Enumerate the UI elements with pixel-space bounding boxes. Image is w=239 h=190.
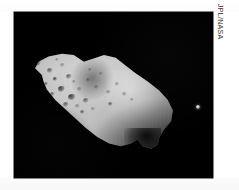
asteroid-photo (14, 12, 213, 178)
crater (68, 94, 76, 100)
crater (108, 102, 113, 106)
crater (91, 107, 95, 111)
crater (47, 68, 53, 73)
crater (77, 87, 82, 91)
crater (55, 58, 59, 61)
asteroid-ida (20, 30, 188, 162)
asteroid-terminator-cusp (124, 128, 161, 154)
moon-dactyl (196, 105, 200, 109)
crater (38, 74, 43, 79)
crater (58, 86, 65, 92)
crater (99, 72, 103, 75)
photo-page: JPL/NASA (0, 0, 239, 190)
crater (88, 68, 92, 71)
crater (75, 104, 80, 108)
crater (106, 90, 111, 94)
crater (83, 98, 89, 103)
page-margin-top (0, 0, 239, 12)
crater (63, 102, 69, 107)
asteroid-body (20, 30, 188, 162)
page-margin-bottom (0, 178, 239, 190)
crater (72, 80, 76, 83)
credit-line: JPL/NASA (214, 4, 226, 50)
crater (115, 82, 119, 86)
crater (66, 74, 72, 79)
asteroid-highlight (107, 70, 164, 123)
crater (42, 52, 47, 56)
crater (44, 82, 48, 86)
crater (34, 60, 41, 66)
credit-text: JPL/NASA (216, 4, 224, 39)
crater (53, 77, 57, 81)
crater (60, 63, 65, 67)
crater (86, 78, 90, 82)
crater (94, 85, 99, 89)
crater (80, 110, 85, 114)
crater (50, 92, 55, 96)
crater (122, 92, 127, 96)
crater (130, 98, 134, 101)
